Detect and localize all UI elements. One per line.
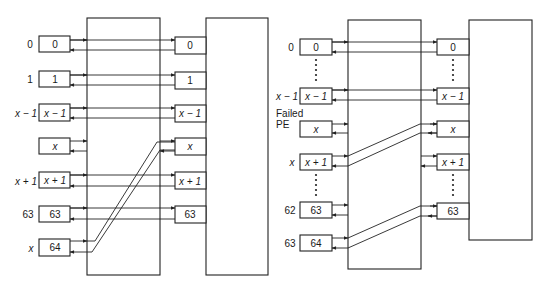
- left-outer-label: 1: [27, 74, 33, 85]
- failed-label-line2: PE: [276, 119, 290, 130]
- pe-ellipsis-dots: [315, 59, 317, 81]
- port-label: 63: [184, 209, 196, 220]
- port-label: x: [450, 124, 457, 135]
- left-diagram: 0 0 0 1 1 1 x − 1 x − 1: [14, 18, 268, 275]
- right-diagram: 0 0 x − 1 x − 1 Failed PE x: [275, 20, 532, 269]
- pe-label: x + 1: [43, 175, 66, 186]
- port-label: 63: [447, 206, 459, 217]
- port-label: x + 1: [441, 157, 464, 168]
- left-outer-label: 63: [22, 209, 34, 220]
- left-outer-label: x − 1: [14, 108, 37, 119]
- pe-reconfiguration-diagram: 0 0 0 1 1 1 x − 1 x − 1: [0, 0, 550, 289]
- pe-label: x: [313, 124, 320, 135]
- pe-label: x − 1: [304, 91, 327, 102]
- right-outer-label: x − 1: [275, 91, 298, 102]
- left-outer-label: x: [28, 243, 35, 254]
- port-label: 0: [187, 40, 193, 51]
- left-outer-label: x + 1: [14, 176, 37, 187]
- pe-label: 63: [310, 205, 322, 216]
- pe-label: x − 1: [43, 108, 66, 119]
- port-label: 1: [187, 75, 193, 86]
- port-label: x − 1: [178, 108, 201, 119]
- port-label: x: [187, 141, 194, 152]
- failed-label-line1: Failed: [276, 108, 303, 119]
- right-outer-label: 62: [284, 205, 296, 216]
- right-outer-label: x: [289, 157, 296, 168]
- pe-label: 64: [49, 242, 61, 253]
- right-row-63: 62 63: [284, 202, 348, 218]
- pe-label: 0: [313, 42, 319, 53]
- pe-label: 1: [52, 74, 58, 85]
- pe-label: x: [52, 141, 59, 152]
- pe-ellipsis-dots-2: [315, 174, 317, 196]
- right-outer-label: 0: [288, 42, 294, 53]
- left-outer-label: 0: [27, 39, 33, 50]
- pe-label: x + 1: [304, 157, 327, 168]
- failed-pe-label: Failed PE: [276, 108, 303, 130]
- pe-label: 0: [52, 39, 58, 50]
- pe-label: 64: [310, 238, 322, 249]
- port-label: 0: [450, 42, 456, 53]
- port-label: x − 1: [441, 91, 464, 102]
- right-outer-label: 63: [284, 238, 296, 249]
- right-host-block: [469, 20, 532, 240]
- pe-label: 63: [49, 209, 61, 220]
- left-host-block: [206, 18, 268, 275]
- right-row-x-failed: x: [300, 121, 348, 137]
- right-ports: 0 x − 1 x x + 1 63: [421, 39, 469, 219]
- port-label: x + 1: [178, 176, 201, 187]
